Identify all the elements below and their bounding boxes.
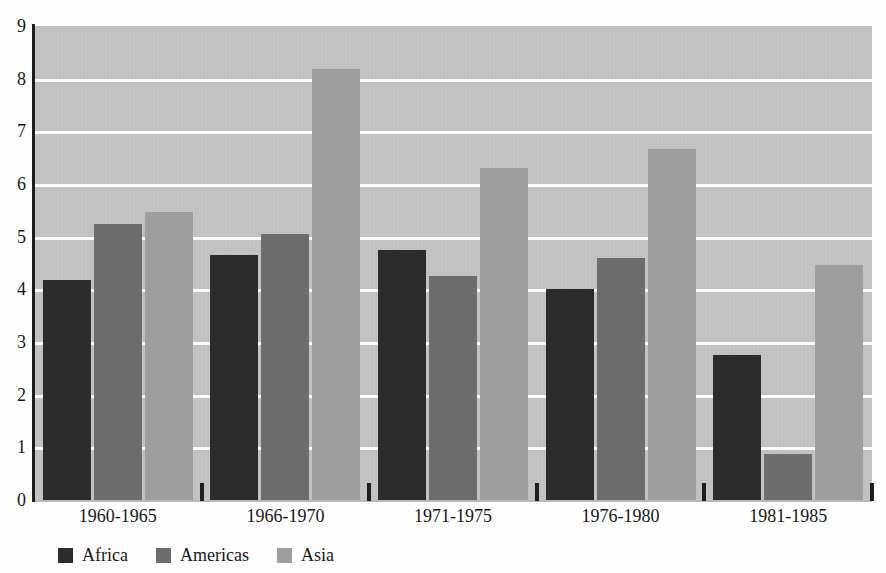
y-axis-tick-label: 4 [0, 280, 26, 298]
y-axis-tick-label: 8 [0, 70, 26, 88]
bar-asia-1960-1965 [145, 212, 193, 500]
x-axis-tick-mark [702, 483, 706, 501]
legend: AfricaAmericasAsia [58, 544, 362, 566]
y-axis-tick-label: 5 [0, 228, 26, 246]
bar-americas-1976-1980 [597, 258, 645, 500]
gridline [34, 79, 872, 82]
x-axis-tick-label: 1966-1970 [202, 506, 370, 526]
x-axis-tick-label: 1981-1985 [704, 506, 872, 526]
y-axis-tick-label: 7 [0, 122, 26, 140]
bar-asia-1981-1985 [815, 265, 863, 500]
x-axis-tick-mark [870, 483, 874, 501]
bar-africa-1971-1975 [378, 250, 426, 500]
y-axis-tick-label: 6 [0, 175, 26, 193]
x-axis-tick-mark [200, 483, 204, 501]
bar-africa-1981-1985 [713, 355, 761, 500]
x-axis-tick-label: 1976-1980 [537, 506, 705, 526]
legend-swatch-icon [277, 548, 292, 563]
y-axis-line [32, 24, 35, 502]
legend-swatch-icon [58, 548, 73, 563]
bar-chart: 9876543210 1960-19651966-19701971-197519… [0, 0, 886, 573]
bar-americas-1971-1975 [429, 276, 477, 500]
y-axis-tick-labels: 9876543210 [0, 26, 26, 500]
bar-asia-1966-1970 [312, 69, 360, 500]
bar-americas-1966-1970 [261, 234, 309, 500]
x-axis-tick-mark [535, 483, 539, 501]
y-axis-tick-label: 2 [0, 386, 26, 404]
legend-item-americas[interactable]: Americas [156, 546, 249, 564]
gridline [34, 184, 872, 187]
bar-americas-1981-1985 [764, 454, 812, 500]
legend-item-africa[interactable]: Africa [58, 546, 128, 564]
plot-area [34, 26, 872, 500]
bar-asia-1976-1980 [648, 149, 696, 500]
bar-africa-1976-1980 [546, 289, 594, 500]
legend-swatch-icon [156, 548, 171, 563]
bar-asia-1971-1975 [480, 168, 528, 500]
y-axis-tick-label: 0 [0, 491, 26, 509]
x-axis-tick-mark [367, 483, 371, 501]
bar-africa-1966-1970 [210, 255, 258, 500]
x-axis-tick-label: 1971-1975 [369, 506, 537, 526]
legend-item-asia[interactable]: Asia [277, 546, 334, 564]
legend-label: Africa [82, 546, 128, 564]
y-axis-tick-label: 3 [0, 333, 26, 351]
legend-label: Americas [180, 546, 249, 564]
x-axis-line [32, 500, 872, 502]
gridline [34, 131, 872, 134]
y-axis-tick-label: 1 [0, 438, 26, 456]
bar-africa-1960-1965 [43, 280, 91, 500]
bar-americas-1960-1965 [94, 224, 142, 501]
y-axis-tick-label: 9 [0, 17, 26, 35]
x-axis-tick-label: 1960-1965 [34, 506, 202, 526]
legend-label: Asia [301, 546, 334, 564]
